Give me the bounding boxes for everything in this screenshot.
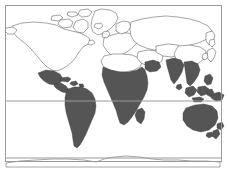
- world-map: [0, 0, 229, 173]
- world-map-svg: [0, 0, 229, 173]
